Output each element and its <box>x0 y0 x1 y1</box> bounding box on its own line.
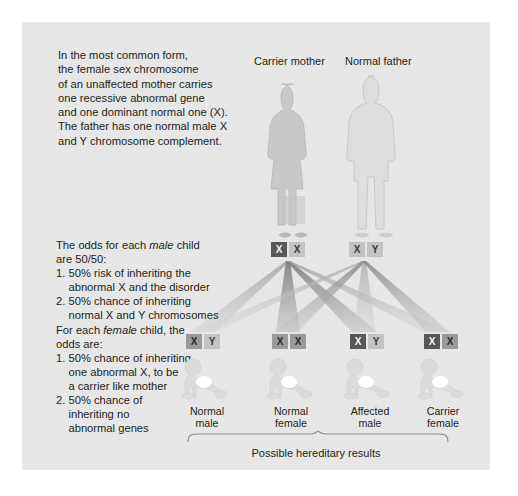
odds-line-3: 1. 50% risk of inheriting the <box>56 266 246 280</box>
odds-line-6: normal X and Y chromosomes <box>56 308 246 322</box>
odds-line-4: abnormal X and the disorder <box>56 280 246 294</box>
crawling-baby-icon <box>178 358 234 402</box>
child-label-4: Carrier female <box>406 405 480 430</box>
child-label-line2: male <box>359 417 382 429</box>
odds-line-2: are 50/50: <box>56 252 246 266</box>
crawling-baby-icon <box>263 358 319 402</box>
chromosome-box: X <box>350 334 366 349</box>
crawling-baby-icon <box>340 358 396 402</box>
child-label-line1: Normal <box>190 405 224 417</box>
chromosome-box: Y <box>368 334 384 349</box>
child-label-line2: male <box>196 417 219 429</box>
child-label-line1: Normal <box>274 405 308 417</box>
chromosome-box: X <box>349 242 365 257</box>
chromosome-box: X <box>186 334 202 349</box>
odds-line-1: The odds for each male child <box>56 238 246 252</box>
child-3-chromosome-pair: X Y <box>350 334 384 349</box>
child-label-3: Affected male <box>333 405 407 430</box>
chromosome-box: X <box>424 334 440 349</box>
parent-label-father: Normal father <box>345 55 412 67</box>
female-silhouette-icon <box>263 78 323 238</box>
child-label-line1: Carrier <box>427 405 459 417</box>
child-label-line2: female <box>427 417 459 429</box>
chromosome-box: X <box>290 334 306 349</box>
results-brace-icon <box>186 430 450 444</box>
child-2-chromosome-pair: X X <box>272 334 306 349</box>
chromosome-box: Y <box>367 242 383 257</box>
chromosome-box: X <box>271 242 287 257</box>
chromosome-box: X <box>272 334 288 349</box>
father-chromosome-pair: X Y <box>349 242 383 257</box>
results-caption: Possible hereditary results <box>171 447 461 459</box>
genetics-inheritance-figure: In the most common form, the female sex … <box>0 0 518 496</box>
intro-text: In the most common form, the female sex … <box>58 48 273 148</box>
crawling-baby-icon <box>414 358 470 402</box>
chromosome-box: X <box>289 242 305 257</box>
child-label-1: Normal male <box>170 405 244 430</box>
child-label-2: Normal female <box>254 405 328 430</box>
child-1-chromosome-pair: X Y <box>186 334 220 349</box>
chromosome-box: X <box>442 334 458 349</box>
mother-chromosome-pair: X X <box>271 242 305 257</box>
parent-label-mother: Carrier mother <box>254 55 325 67</box>
male-silhouette-icon <box>343 72 405 238</box>
chromosome-box: Y <box>204 334 220 349</box>
odds-line-5: 2. 50% chance of inheriting <box>56 294 246 308</box>
child-label-line1: Affected <box>351 405 390 417</box>
child-4-chromosome-pair: X X <box>424 334 458 349</box>
child-label-line2: female <box>275 417 307 429</box>
